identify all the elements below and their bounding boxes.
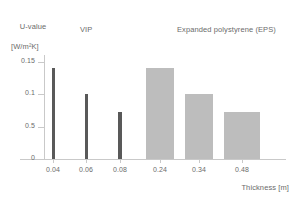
x-tick-mark: [199, 159, 200, 163]
u-value-bar-chart: U-value [W/m²K] VIP Expanded polystyrene…: [0, 0, 297, 201]
y-tick-mark: [38, 159, 44, 160]
x-tick-mark: [86, 159, 87, 163]
x-tick-label: 0.06: [71, 166, 101, 173]
y-tick-label-wrap: 0.5: [6, 122, 35, 132]
bar-vip-0.04: [52, 68, 55, 159]
x-tick-label: 0.08: [105, 166, 135, 173]
bar-eps-0.48: [224, 112, 260, 159]
bar-eps-0.24: [146, 68, 174, 159]
y-axis-title-line1: U-value: [20, 22, 47, 31]
y-tick-label-wrap: 0: [6, 154, 35, 164]
bar-eps-0.34: [185, 94, 213, 159]
x-tick-mark: [53, 159, 54, 163]
x-tick-mark: [160, 159, 161, 163]
y-tick-label: 0.5: [25, 122, 35, 129]
plot-area: [44, 55, 250, 159]
bar-vip-0.06: [85, 94, 88, 159]
x-tick-label: 0.24: [145, 166, 175, 173]
x-tick-mark: [120, 159, 121, 163]
x-axis-title: Thickness [m]: [241, 183, 289, 192]
series-label-eps: Expanded polystyrene (EPS): [177, 25, 276, 34]
x-tick-label: 0.34: [184, 166, 214, 173]
y-tick-label: 0: [31, 154, 35, 161]
x-axis-line: [20, 159, 286, 160]
y-axis-title-line2: [W/m²K]: [11, 42, 46, 52]
y-tick-label-wrap: 0.1: [6, 89, 35, 99]
y-tick-label: 0.15: [21, 57, 35, 64]
x-tick-mark: [242, 159, 243, 163]
y-tick-label-wrap: 0.15: [6, 57, 35, 67]
y-tick-label: 0.1: [25, 89, 35, 96]
x-tick-label: 0.04: [38, 166, 68, 173]
x-tick-label: 0.48: [227, 166, 257, 173]
bar-vip-0.08: [118, 112, 122, 159]
series-label-vip: VIP: [80, 25, 92, 34]
